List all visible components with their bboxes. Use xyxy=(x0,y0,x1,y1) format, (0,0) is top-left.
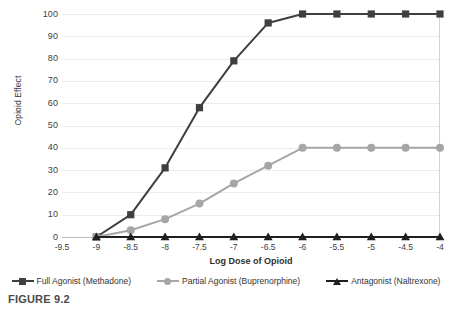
chart-legend: Full Agonist (Methadone)Partial Agonist … xyxy=(0,272,452,290)
data-point-square xyxy=(402,10,409,17)
legend-item-3[interactable]: Antagonist (Naltrexone) xyxy=(326,276,440,286)
series-line xyxy=(96,14,440,237)
data-point-square xyxy=(127,211,134,218)
legend-swatch-triangle-icon xyxy=(326,276,348,286)
x-axis-title: Log Dose of Opioid xyxy=(62,256,440,266)
data-point-circle xyxy=(264,162,272,170)
legend-swatch-square-icon xyxy=(12,276,34,286)
data-point-circle xyxy=(367,144,375,152)
data-point-square xyxy=(333,10,340,17)
data-point-circle xyxy=(161,215,169,223)
data-point-square xyxy=(161,164,168,171)
legend-swatch-circle-icon xyxy=(157,276,179,286)
legend-label: Partial Agonist (Buprenorphine) xyxy=(182,277,300,286)
data-point-square xyxy=(299,10,306,17)
series-1 xyxy=(93,10,444,240)
data-point-circle xyxy=(436,144,444,152)
legend-marker-square-icon xyxy=(19,278,26,285)
legend-item-2[interactable]: Partial Agonist (Buprenorphine) xyxy=(157,276,300,286)
legend-marker-triangle-icon xyxy=(333,278,341,285)
data-point-square xyxy=(196,104,203,111)
legend-label: Antagonist (Naltrexone) xyxy=(351,277,440,286)
data-point-square xyxy=(436,10,443,17)
legend-marker-circle-icon xyxy=(164,278,171,285)
data-point-circle xyxy=(402,144,410,152)
data-point-circle xyxy=(195,200,203,208)
figure-container: Opioid Effect 0102030405060708090100 -9.… xyxy=(0,0,452,313)
series-3 xyxy=(92,233,445,241)
figure-caption: FIGURE 9.2 xyxy=(8,293,70,305)
legend-label: Full Agonist (Methadone) xyxy=(37,277,132,286)
data-point-circle xyxy=(299,144,307,152)
chart-plot-area: Opioid Effect 0102030405060708090100 -9.… xyxy=(0,0,452,268)
series-layer xyxy=(0,0,452,268)
data-point-circle xyxy=(333,144,341,152)
data-point-circle xyxy=(230,179,238,187)
series-2 xyxy=(92,144,444,241)
data-point-square xyxy=(368,10,375,17)
data-point-square xyxy=(230,57,237,64)
legend-item-1[interactable]: Full Agonist (Methadone) xyxy=(12,276,132,286)
data-point-square xyxy=(265,19,272,26)
